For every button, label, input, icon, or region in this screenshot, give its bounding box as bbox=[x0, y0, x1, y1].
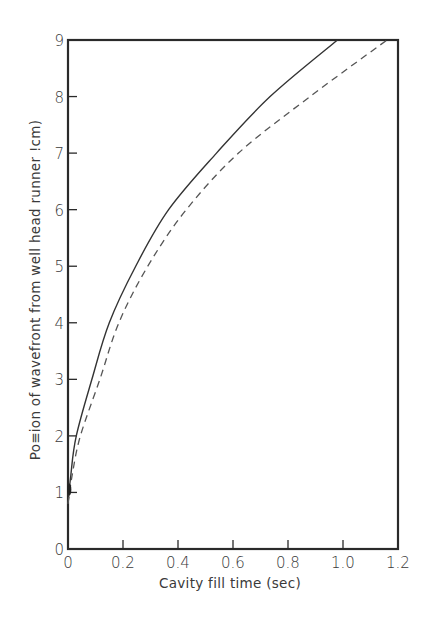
y-tick-label: 9 bbox=[54, 32, 64, 50]
plot-border bbox=[68, 40, 398, 549]
solid-curve bbox=[68, 40, 338, 504]
y-axis-ticks: 0123456789 bbox=[54, 32, 77, 559]
origin-ink-mark bbox=[67, 484, 71, 496]
x-tick-label: 0.2 bbox=[111, 554, 135, 572]
y-tick-label: 5 bbox=[54, 258, 64, 276]
y-tick-label: 1 bbox=[54, 484, 64, 502]
x-tick-label: 0.6 bbox=[221, 554, 245, 572]
y-tick-label: 7 bbox=[54, 145, 64, 163]
chart: 0123456789 00.20.40.60.81.01.2 Cavity fi… bbox=[0, 0, 432, 621]
x-tick-label: 0.8 bbox=[276, 554, 300, 572]
x-tick-label: 1.0 bbox=[331, 554, 355, 572]
y-axis-label: Po≡ion of wavefront from well head runne… bbox=[27, 120, 43, 461]
x-tick-label: 0 bbox=[63, 554, 73, 572]
y-tick-label: 8 bbox=[54, 89, 64, 107]
x-tick-label: 0.4 bbox=[166, 554, 190, 572]
x-tick-label: 1.2 bbox=[386, 554, 410, 572]
x-axis-label: Cavity fill time (sec) bbox=[159, 575, 301, 591]
plot-frame bbox=[68, 40, 398, 549]
data-series bbox=[67, 40, 387, 504]
y-tick-label: 6 bbox=[54, 202, 64, 220]
y-tick-label: 4 bbox=[54, 315, 64, 333]
x-axis-ticks: 00.20.40.60.81.01.2 bbox=[63, 540, 410, 572]
dashed-curve bbox=[68, 40, 387, 504]
y-tick-label: 3 bbox=[54, 371, 64, 389]
y-tick-label: 2 bbox=[54, 428, 64, 446]
